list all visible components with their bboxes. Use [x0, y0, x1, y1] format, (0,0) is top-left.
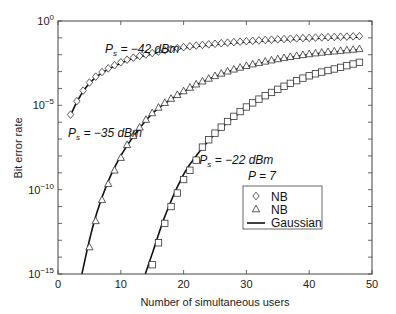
square-marker-icon: [212, 130, 218, 136]
legend: P = 7 NBNBGaussian: [243, 169, 322, 230]
diamond-marker-icon: [293, 35, 299, 43]
x-tick-label: 0: [55, 278, 61, 290]
legend-label: NB: [271, 203, 288, 217]
diamond-marker-icon: [268, 36, 274, 44]
diamond-marker-icon: [199, 41, 205, 49]
square-marker-icon: [256, 96, 262, 102]
triangle-marker-icon: [111, 166, 118, 173]
square-marker-icon: [224, 118, 230, 124]
x-tick-label: 40: [303, 278, 315, 290]
diamond-marker-icon: [300, 34, 306, 42]
square-marker-icon: [168, 203, 174, 209]
power-annotation: Ps = −22 dBm: [199, 153, 273, 169]
diamond-marker-icon: [212, 40, 218, 48]
square-marker-icon: [293, 77, 299, 83]
x-tick-label: 10: [115, 278, 127, 290]
square-marker-icon: [350, 61, 356, 67]
square-marker-icon: [344, 62, 350, 68]
square-marker-icon: [312, 71, 318, 77]
square-marker-icon: [149, 262, 155, 268]
diamond-marker-icon: [325, 33, 331, 41]
x-tick-label: 30: [240, 278, 252, 290]
ber-chart: 01020304050 10010−510−1010−15 Number of …: [0, 0, 396, 314]
diamond-marker-icon: [249, 37, 255, 45]
y-tick-label: 100: [37, 13, 54, 27]
square-marker-icon: [281, 83, 287, 89]
square-marker-icon: [155, 240, 161, 246]
y-tick-label: 10−5: [33, 97, 55, 111]
legend-title: P = 7: [248, 169, 277, 183]
diamond-marker-icon: [193, 42, 199, 50]
power-annotation: Ps = −42 dBm: [105, 42, 179, 58]
diamond-marker-icon: [287, 35, 293, 43]
square-marker-icon: [187, 167, 193, 173]
square-marker-icon: [206, 137, 212, 143]
triangle-marker-icon: [356, 45, 363, 52]
square-marker-icon: [180, 176, 186, 182]
square-marker-icon: [199, 144, 205, 150]
diamond-marker-icon: [124, 56, 130, 64]
diamond-marker-icon: [262, 36, 268, 44]
legend-label: NB: [271, 190, 288, 204]
diamond-marker-icon: [275, 36, 281, 44]
triangle-marker-icon: [117, 154, 124, 161]
x-tick-label: 20: [177, 278, 189, 290]
diamond-marker-icon: [356, 32, 362, 40]
diamond-marker-icon: [224, 39, 230, 47]
legend-label: Gaussian: [271, 216, 322, 230]
square-marker-icon: [231, 113, 237, 119]
diamond-marker-icon: [256, 37, 262, 45]
y-tick-label: 10−10: [28, 182, 54, 196]
diamond-marker-icon: [187, 42, 193, 50]
square-marker-icon: [319, 69, 325, 75]
diamond-marker-icon: [319, 34, 325, 42]
diamond-marker-icon: [180, 43, 186, 51]
diamond-marker-icon: [243, 37, 249, 45]
x-tick-label: 50: [366, 278, 378, 290]
power-annotation: Ps = −35 dBm: [68, 126, 142, 142]
diamond-marker-icon: [331, 33, 337, 41]
plot-frame: [58, 21, 372, 274]
square-marker-icon: [325, 67, 331, 73]
square-marker-icon: [237, 108, 243, 114]
triangle-marker-icon: [98, 196, 105, 203]
curve-annotations: Ps = −42 dBmPs = −35 dBmPs = −22 dBm: [68, 42, 273, 169]
square-marker-icon: [249, 100, 255, 106]
square-marker-icon: [300, 75, 306, 81]
diamond-marker-icon: [231, 38, 237, 46]
square-marker-icon: [331, 66, 337, 72]
square-marker-icon: [243, 104, 249, 110]
square-marker-icon: [262, 92, 268, 98]
square-marker-icon: [337, 64, 343, 70]
square-marker-icon: [287, 80, 293, 86]
y-axis-label: Bit error rate: [12, 117, 24, 178]
square-marker-icon: [218, 124, 224, 130]
diamond-marker-icon: [312, 34, 318, 42]
square-marker-icon: [268, 89, 274, 95]
diamond-marker-icon: [350, 33, 356, 41]
triangle-marker-icon: [86, 243, 93, 250]
diamond-marker-icon: [306, 34, 312, 42]
diamond-marker-icon: [344, 33, 350, 41]
x-axis-label: Number of simultaneous users: [140, 296, 290, 308]
diamond-marker-icon: [281, 35, 287, 43]
diamond-marker-icon: [337, 33, 343, 41]
square-marker-icon: [275, 86, 281, 92]
diamond-marker-icon: [237, 38, 243, 46]
diamond-marker-icon: [218, 39, 224, 47]
square-marker-icon: [306, 73, 312, 79]
square-marker-icon: [162, 220, 168, 226]
diamond-marker-icon: [206, 41, 212, 49]
square-marker-icon: [174, 190, 180, 196]
square-marker-icon: [356, 59, 362, 65]
y-tick-label: 10−15: [28, 266, 54, 280]
triangle-marker-icon: [105, 180, 112, 187]
triangle-marker-icon: [92, 217, 99, 224]
